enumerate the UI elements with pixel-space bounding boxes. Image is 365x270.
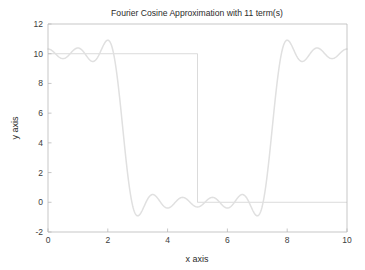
y-tick-label: 8 xyxy=(38,78,43,88)
y-tick-label: 12 xyxy=(34,19,44,29)
chart-title: Fourier Cosine Approximation with 11 ter… xyxy=(111,8,283,18)
y-tick-label: 6 xyxy=(38,108,43,118)
square-wave-series xyxy=(48,54,347,203)
y-tick-label: 0 xyxy=(38,197,43,207)
y-axis-ticks: -2024681012 xyxy=(34,19,52,237)
x-axis-ticks: 0246810 xyxy=(46,229,352,246)
square-wave-path xyxy=(48,54,347,203)
chart-canvas: Fourier Cosine Approximation with 11 ter… xyxy=(0,0,365,270)
y-tick-label: 10 xyxy=(34,49,44,59)
x-tick-label: 6 xyxy=(225,235,230,245)
x-tick-label: 0 xyxy=(46,235,51,245)
y-axis-label: y axis xyxy=(10,116,20,140)
x-axis-label: x axis xyxy=(185,254,209,264)
x-tick-label: 10 xyxy=(342,235,352,245)
figure-container: Fourier Cosine Approximation with 11 ter… xyxy=(0,0,365,270)
y-tick-label: 4 xyxy=(38,138,43,148)
x-tick-label: 4 xyxy=(165,235,170,245)
y-tick-label: -2 xyxy=(35,227,43,237)
y-tick-label: 2 xyxy=(38,168,43,178)
x-tick-label: 8 xyxy=(285,235,290,245)
x-tick-label: 2 xyxy=(105,235,110,245)
